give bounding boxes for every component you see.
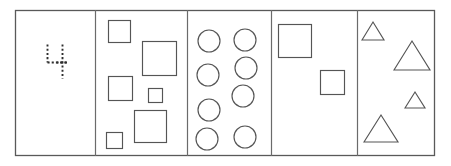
figure-background xyxy=(0,0,451,166)
figure-canvas xyxy=(0,0,451,166)
shape-strip-diagram xyxy=(0,0,451,166)
